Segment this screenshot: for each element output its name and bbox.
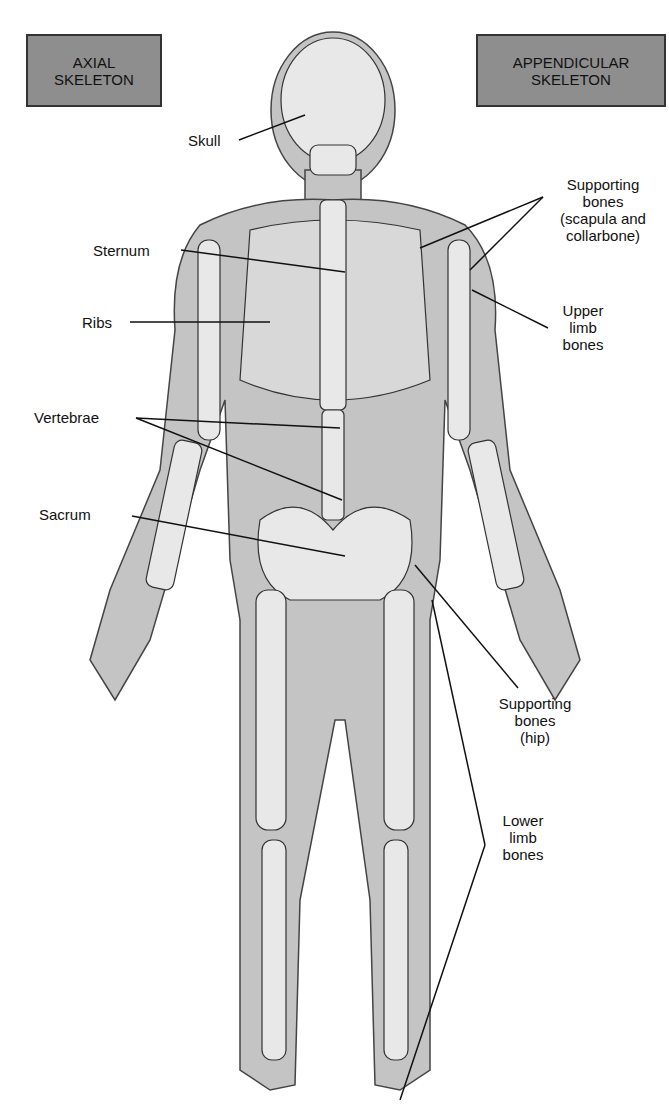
- label-supporting-shoulder: Supporting bones (scapula and collarbone…: [538, 176, 668, 244]
- label-supporting-hip: Supporting bones (hip): [480, 695, 590, 746]
- label-lower-limb: Lower limb bones: [488, 812, 558, 863]
- appendicular-skeleton-box: APPENDICULAR SKELETON: [476, 34, 666, 107]
- appendicular-box-line2: SKELETON: [531, 71, 611, 88]
- label-upper-limb: Upper limb bones: [548, 302, 618, 353]
- axial-box-line2: SKELETON: [54, 71, 134, 88]
- label-sternum: Sternum: [93, 242, 150, 259]
- label-ribs: Ribs: [82, 314, 112, 331]
- axial-skeleton-box: AXIAL SKELETON: [26, 34, 162, 107]
- axial-box-line1: AXIAL: [73, 54, 116, 71]
- skeleton-illustration: [0, 0, 669, 1115]
- label-sacrum: Sacrum: [39, 506, 91, 523]
- label-vertebrae: Vertebrae: [34, 409, 99, 426]
- appendicular-box-line1: APPENDICULAR: [513, 54, 630, 71]
- label-skull: Skull: [188, 132, 221, 149]
